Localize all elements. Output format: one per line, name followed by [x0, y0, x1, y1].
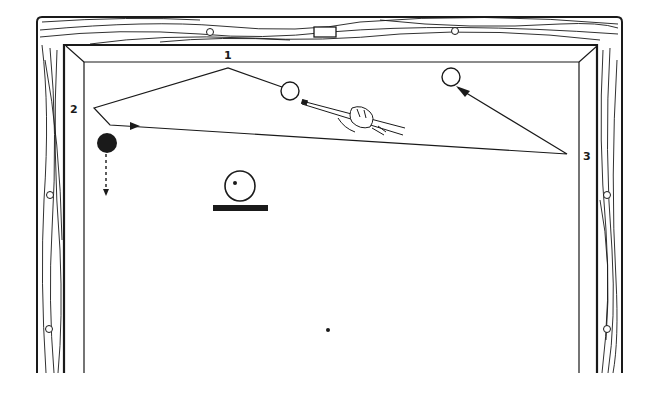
- shot-path: [94, 68, 567, 154]
- object-ball-target: [442, 68, 460, 86]
- target-arrow-icon: [456, 86, 470, 97]
- center-spot: [326, 328, 330, 332]
- table-frame: [37, 17, 622, 373]
- billiard-table-diagram: 1 2 3: [0, 0, 653, 393]
- stand-bar: [213, 205, 268, 211]
- cushion-label-2: 2: [70, 103, 78, 116]
- cue-stick-and-hand: [302, 100, 405, 135]
- ball-on-stand-inset: [213, 171, 268, 211]
- cushion-label-3: 3: [583, 150, 591, 163]
- cushion-label-1: 1: [224, 49, 232, 62]
- contact-point-dot: [233, 181, 237, 185]
- down-arrow-icon: [103, 189, 109, 196]
- object-ball-black: [97, 133, 117, 153]
- cushion-rail: [66, 46, 597, 373]
- path-arrow-icon: [130, 122, 140, 130]
- cue-ball: [281, 82, 299, 100]
